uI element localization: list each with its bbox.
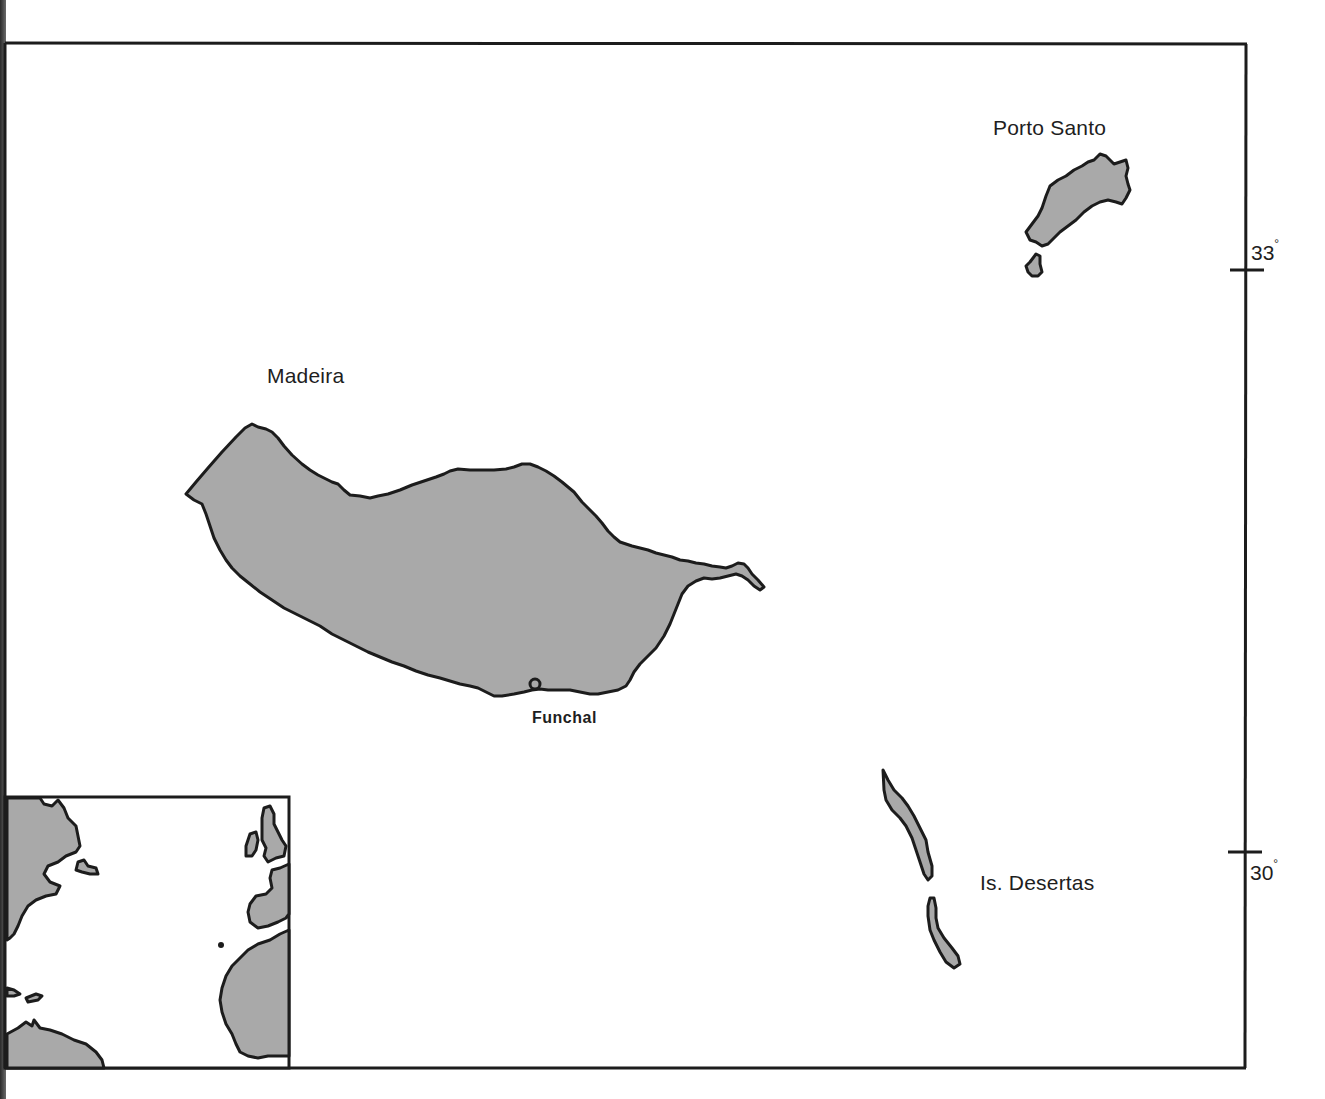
desertas-label: Is. Desertas xyxy=(980,872,1094,893)
inset-madeira-marker xyxy=(218,942,224,948)
inset-locator-map xyxy=(5,797,289,1068)
porto-santo-islet xyxy=(1026,254,1042,276)
latitude-value: 30 xyxy=(1250,861,1273,884)
funchal-marker xyxy=(530,679,540,689)
madeira-island xyxy=(186,424,764,696)
map-canvas xyxy=(0,0,1325,1099)
latitude-label-30: 30° xyxy=(1250,862,1278,883)
funchal-label: Funchal xyxy=(532,710,597,726)
porto-santo-island xyxy=(1026,154,1130,246)
latitude-label-33: 33° xyxy=(1251,242,1279,263)
degree-symbol: ° xyxy=(1274,237,1279,251)
latitude-value: 33 xyxy=(1251,241,1274,264)
deserta-grande-island xyxy=(883,770,932,880)
bugio-island xyxy=(928,898,960,968)
porto-santo-label: Porto Santo xyxy=(993,117,1106,138)
madeira-label: Madeira xyxy=(267,365,344,386)
degree-symbol: ° xyxy=(1273,857,1278,871)
